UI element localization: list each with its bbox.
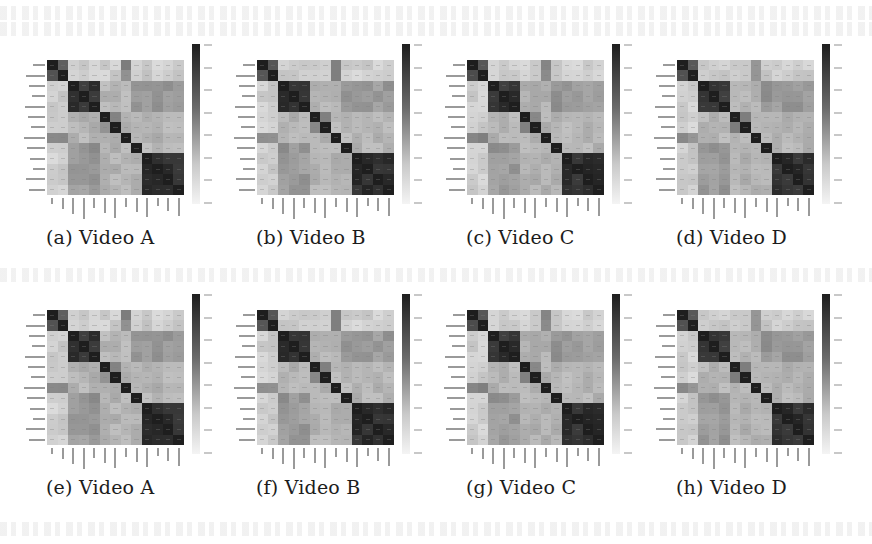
heatmap-cell bbox=[751, 414, 762, 424]
heatmap-cell bbox=[131, 383, 142, 393]
heatmap-cell bbox=[47, 435, 58, 445]
heatmap-cell bbox=[793, 331, 804, 341]
heatmap-x-axis-labels bbox=[467, 198, 604, 224]
x-axis-label bbox=[471, 448, 473, 454]
heatmap-cell bbox=[709, 122, 720, 132]
heatmap-cell bbox=[782, 174, 793, 184]
heatmap-cell bbox=[131, 424, 142, 434]
heatmap-cell bbox=[68, 102, 79, 112]
y-axis-label bbox=[239, 85, 255, 87]
heatmap-cell bbox=[163, 122, 174, 132]
heatmap-cell bbox=[740, 81, 751, 91]
heatmap-cell bbox=[593, 164, 604, 174]
heatmap-cell bbox=[268, 70, 279, 80]
heatmap-cell bbox=[320, 362, 331, 372]
heatmap-cell bbox=[152, 362, 163, 372]
heatmap-cell bbox=[89, 143, 100, 153]
heatmap-cell bbox=[751, 143, 762, 153]
y-axis-label bbox=[236, 428, 255, 430]
heatmap-cell bbox=[677, 310, 688, 320]
heatmap-cell bbox=[499, 383, 510, 393]
heatmap-cell bbox=[310, 362, 321, 372]
heatmap-cell bbox=[173, 414, 184, 424]
heatmap-cell bbox=[520, 341, 531, 351]
heatmap-cell bbox=[467, 331, 478, 341]
heatmap-cell bbox=[131, 91, 142, 101]
heatmap-cell bbox=[719, 362, 730, 372]
heatmap-cell bbox=[499, 185, 510, 195]
heatmap-cell bbox=[121, 352, 132, 362]
heatmap-cell bbox=[562, 102, 573, 112]
heatmap-cell bbox=[677, 341, 688, 351]
heatmap-cell bbox=[131, 81, 142, 91]
heatmap-cell bbox=[541, 133, 552, 143]
heatmap-cell bbox=[268, 424, 279, 434]
heatmap-cell bbox=[58, 133, 69, 143]
heatmap-cell bbox=[121, 164, 132, 174]
colorbar-tick-label bbox=[414, 179, 422, 181]
heatmap-cell bbox=[698, 174, 709, 184]
heatmap-cell bbox=[541, 122, 552, 132]
y-axis-label bbox=[240, 408, 255, 410]
heatmap-cell bbox=[310, 133, 321, 143]
heatmap-cell bbox=[562, 320, 573, 330]
heatmap-cell bbox=[782, 424, 793, 434]
heatmap-cell bbox=[677, 133, 688, 143]
heatmap-cell bbox=[268, 403, 279, 413]
heatmap-cell bbox=[289, 372, 300, 382]
heatmap-cell bbox=[173, 383, 184, 393]
x-axis-label bbox=[808, 448, 810, 466]
heatmap-cell bbox=[751, 424, 762, 434]
heatmap-cell bbox=[257, 435, 268, 445]
y-axis-label bbox=[449, 85, 465, 87]
heatmap-cell bbox=[278, 352, 289, 362]
heatmap-cell bbox=[131, 143, 142, 153]
heatmap-cell bbox=[509, 112, 520, 122]
heatmap-cell bbox=[278, 403, 289, 413]
heatmap-cell bbox=[551, 153, 562, 163]
heatmap-cell bbox=[761, 362, 772, 372]
heatmap-cell bbox=[89, 112, 100, 122]
heatmap-cell bbox=[572, 362, 583, 372]
heatmap-cell bbox=[268, 122, 279, 132]
heatmap-cell bbox=[772, 341, 783, 351]
y-axis-label bbox=[446, 428, 465, 430]
heatmap-cell bbox=[100, 310, 111, 320]
heatmap-cell bbox=[499, 362, 510, 372]
y-axis-label bbox=[27, 147, 45, 149]
heatmap-cell bbox=[593, 341, 604, 351]
heatmap-cell bbox=[152, 153, 163, 163]
heatmap-cell bbox=[373, 174, 384, 184]
x-axis-label bbox=[324, 448, 326, 468]
heatmap-cell bbox=[58, 320, 69, 330]
heatmap-cell bbox=[278, 122, 289, 132]
heatmap-x-axis-labels bbox=[677, 448, 814, 474]
y-axis-label bbox=[237, 147, 255, 149]
x-axis-label bbox=[492, 448, 494, 464]
heatmap-cell bbox=[289, 331, 300, 341]
heatmap-cell bbox=[698, 393, 709, 403]
y-axis-label bbox=[241, 126, 255, 128]
heatmap-cell bbox=[47, 362, 58, 372]
heatmap-cell bbox=[331, 341, 342, 351]
y-axis-label bbox=[445, 106, 465, 108]
heatmap-cell bbox=[572, 164, 583, 174]
heatmap-cell bbox=[373, 352, 384, 362]
heatmap-cell bbox=[131, 133, 142, 143]
heatmap-cell bbox=[562, 435, 573, 445]
heatmap-cell bbox=[541, 91, 552, 101]
y-axis-label bbox=[659, 85, 675, 87]
x-axis-label bbox=[72, 448, 74, 464]
heatmap-cell bbox=[68, 403, 79, 413]
heatmap-cell bbox=[520, 310, 531, 320]
heatmap-cell bbox=[47, 414, 58, 424]
heatmap-cell bbox=[709, 143, 720, 153]
heatmap-cell bbox=[362, 70, 373, 80]
heatmap-cell bbox=[352, 91, 363, 101]
heatmap-cell bbox=[677, 112, 688, 122]
heatmap-cell bbox=[562, 383, 573, 393]
heatmap-cell bbox=[152, 414, 163, 424]
heatmap-cell bbox=[89, 122, 100, 132]
x-axis-label bbox=[356, 448, 358, 467]
heatmap-cell bbox=[499, 60, 510, 70]
